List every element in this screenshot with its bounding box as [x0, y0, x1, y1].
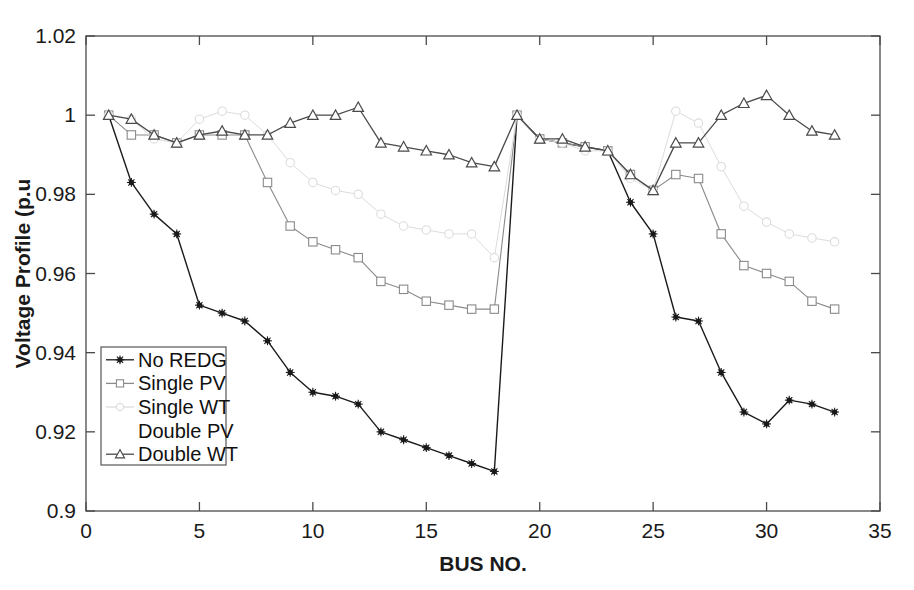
- marker-star: [218, 309, 227, 318]
- y-tick-label: 0.9: [47, 499, 76, 522]
- marker-star: [150, 210, 159, 219]
- y-tick-label: 0.92: [35, 420, 76, 443]
- marker-circle: [762, 218, 770, 226]
- marker-square: [116, 380, 123, 387]
- marker-circle: [672, 107, 680, 115]
- axis-labels-layer: 051015202530350.90.920.940.960.9811.02BU…: [11, 24, 892, 575]
- x-tick-label: 20: [528, 519, 551, 542]
- y-tick-label: 0.98: [35, 182, 76, 205]
- marker-circle: [740, 202, 748, 210]
- legend-item-double-pv[interactable]: Double PV: [138, 420, 234, 442]
- marker-square: [717, 230, 725, 238]
- marker-square: [467, 305, 475, 313]
- marker-star: [399, 435, 408, 444]
- marker-circle: [694, 119, 702, 127]
- marker-square: [399, 285, 407, 293]
- marker-star: [717, 368, 726, 377]
- series-double-wt: [103, 90, 839, 194]
- marker-star: [649, 230, 658, 239]
- marker-star: [830, 408, 839, 417]
- series-single-wt: [104, 107, 838, 262]
- marker-star: [354, 400, 363, 409]
- marker-triangle: [285, 118, 296, 127]
- x-tick-label: 10: [301, 519, 324, 542]
- marker-circle: [808, 234, 816, 242]
- marker-star: [263, 336, 272, 345]
- marker-star: [308, 388, 317, 397]
- marker-star: [127, 178, 136, 187]
- marker-circle: [286, 158, 294, 166]
- marker-square: [672, 170, 680, 178]
- marker-square: [785, 277, 793, 285]
- marker-triangle: [376, 138, 387, 147]
- marker-square: [830, 305, 838, 313]
- marker-square: [740, 261, 748, 269]
- marker-triangle: [466, 157, 477, 166]
- marker-circle: [331, 186, 339, 194]
- y-axis-title: Voltage Profile (p.u: [11, 179, 34, 369]
- marker-circle: [717, 162, 725, 170]
- marker-star: [467, 459, 476, 468]
- x-tick-label: 25: [641, 519, 664, 542]
- y-tick-label: 1.02: [35, 24, 76, 47]
- marker-square: [490, 305, 498, 313]
- marker-star: [445, 451, 454, 460]
- marker-star: [286, 368, 295, 377]
- marker-circle: [785, 230, 793, 238]
- marker-star: [626, 198, 635, 207]
- x-axis-title: BUS NO.: [439, 552, 527, 575]
- x-tick-label: 15: [415, 519, 438, 542]
- y-tick-label: 0.94: [35, 341, 76, 364]
- marker-star: [172, 230, 181, 239]
- marker-circle: [467, 230, 475, 238]
- marker-star: [331, 392, 340, 401]
- legend-label: No REDG: [138, 349, 227, 371]
- x-tick-label: 0: [80, 519, 92, 542]
- marker-circle: [490, 253, 498, 261]
- marker-circle: [354, 190, 362, 198]
- marker-star: [490, 467, 499, 476]
- marker-circle: [377, 210, 385, 218]
- marker-triangle: [761, 90, 772, 99]
- marker-square: [762, 269, 770, 277]
- marker-circle: [116, 403, 123, 410]
- marker-star: [422, 443, 431, 452]
- marker-star: [116, 355, 125, 364]
- marker-square: [694, 174, 702, 182]
- marker-triangle: [739, 98, 750, 107]
- marker-star: [694, 317, 703, 326]
- marker-star: [762, 420, 771, 429]
- marker-star: [739, 408, 748, 417]
- marker-triangle: [807, 126, 818, 135]
- legend-label: Double WT: [138, 443, 238, 465]
- legend-label: Single WT: [138, 396, 230, 418]
- marker-circle: [309, 178, 317, 186]
- series-path: [109, 95, 835, 190]
- marker-star: [671, 313, 680, 322]
- marker-star: [377, 427, 386, 436]
- y-tick-label: 0.96: [35, 262, 76, 285]
- marker-triangle: [716, 110, 727, 119]
- legend-label: Double PV: [138, 420, 234, 442]
- marker-square: [422, 297, 430, 305]
- marker-square: [445, 301, 453, 309]
- x-tick-label: 35: [868, 519, 891, 542]
- voltage-profile-line-chart: No REDGSingle PVSingle WTDouble PVDouble…: [0, 0, 914, 590]
- marker-circle: [218, 107, 226, 115]
- marker-circle: [195, 115, 203, 123]
- marker-square: [263, 178, 271, 186]
- marker-star: [808, 400, 817, 409]
- chart-figure: No REDGSingle PVSingle WTDouble PVDouble…: [0, 0, 914, 590]
- legend-layer: No REDGSingle PVSingle WTDouble PVDouble…: [101, 347, 238, 465]
- marker-circle: [241, 111, 249, 119]
- marker-triangle: [353, 102, 364, 111]
- marker-circle: [445, 230, 453, 238]
- series-single-pv: [104, 111, 838, 313]
- marker-square: [127, 131, 135, 139]
- marker-star: [195, 301, 204, 310]
- series-path: [109, 115, 835, 309]
- y-tick-label: 1: [64, 103, 76, 126]
- marker-square: [354, 253, 362, 261]
- x-tick-label: 5: [194, 519, 206, 542]
- x-tick-label: 30: [755, 519, 778, 542]
